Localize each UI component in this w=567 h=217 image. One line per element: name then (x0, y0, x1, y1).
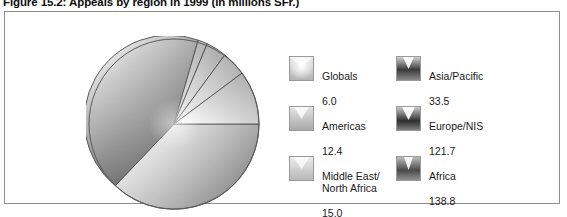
pie-outline (89, 39, 259, 209)
legend-label: Europe/NIS (429, 120, 483, 133)
legend-item: Africa 138.8 (396, 156, 456, 217)
pie-chart-svg (86, 36, 262, 212)
legend-text: Africa 138.8 (429, 156, 456, 217)
chart-legend: Globals 6.0 (289, 56, 561, 206)
legend-label: Asia/Pacific (429, 70, 483, 83)
swatch-europe-nis-icon (396, 106, 421, 131)
pie-chart (86, 36, 262, 212)
swatch-globals-icon (289, 56, 314, 81)
figure-title: Figure 15.2: Appeals by region in 1999 (… (3, 0, 563, 10)
legend-item: Middle East/ North Africa 15.0 (289, 156, 380, 217)
legend-label: Middle East/ North Africa (322, 170, 380, 195)
legend-label: Americas (322, 120, 366, 133)
legend-value: 15.0 (322, 207, 380, 217)
swatch-middle-east-north-africa-icon (289, 156, 314, 181)
legend-label: Globals (322, 70, 358, 83)
legend-text: Middle East/ North Africa 15.0 (322, 156, 380, 217)
figure-container: Figure 15.2: Appeals by region in 1999 (… (0, 0, 567, 217)
swatch-africa-icon (396, 156, 421, 181)
figure-frame: Globals 6.0 (4, 11, 560, 204)
swatch-americas-icon (289, 106, 314, 131)
legend-value: 138.8 (429, 195, 456, 208)
legend-label: Africa (429, 170, 456, 183)
swatch-asia-pacific-icon (396, 56, 421, 81)
